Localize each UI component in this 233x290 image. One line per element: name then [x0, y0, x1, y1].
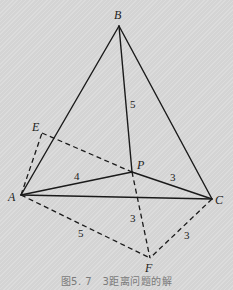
segment-ba: [21, 26, 119, 195]
label-p: P: [136, 158, 145, 172]
figure-canvas: B E A P C F 5 4 3 3 5 3 图5. 7 3距离问题的解: [0, 0, 233, 290]
segment-af: [21, 195, 150, 258]
label-b: B: [114, 8, 122, 22]
point-labels: B E A P C F: [7, 8, 224, 275]
length-ap: 4: [74, 170, 80, 182]
segment-ep: [42, 133, 132, 172]
label-a: A: [7, 190, 16, 204]
solid-lines: [21, 26, 212, 199]
geometry-diagram: B E A P C F 5 4 3 3 5 3: [0, 0, 233, 290]
length-cf: 3: [184, 229, 190, 241]
label-e: E: [31, 120, 40, 134]
length-pc: 3: [170, 171, 176, 183]
length-bp: 5: [130, 98, 136, 110]
label-c: C: [215, 193, 224, 207]
segment-cf: [150, 199, 212, 258]
segment-ac: [21, 195, 212, 199]
length-af: 5: [78, 227, 84, 239]
figure-caption: 图5. 7 3距离问题的解: [0, 273, 233, 288]
length-pf: 3: [130, 212, 136, 224]
